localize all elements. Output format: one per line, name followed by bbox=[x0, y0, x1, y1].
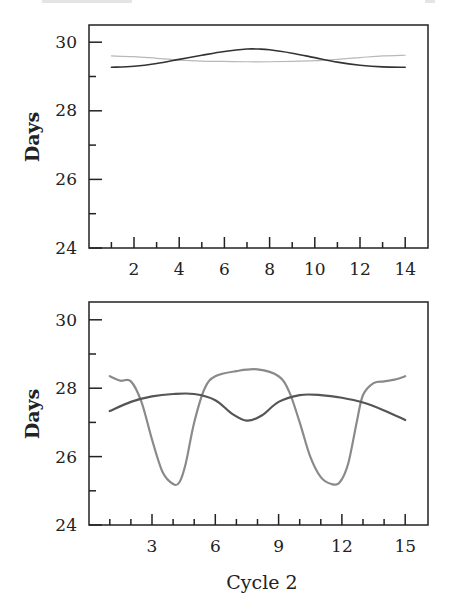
bottom-xtick-label: 12 bbox=[331, 536, 353, 556]
top-xtick-label: 14 bbox=[394, 259, 416, 279]
top-plot-frame bbox=[89, 25, 428, 248]
top-x-tick-labels: 2468101214 bbox=[129, 259, 416, 279]
top-xtick-label: 8 bbox=[264, 259, 275, 279]
bottom-x-tick-labels: 3691215 bbox=[147, 536, 416, 556]
top-chart-panel: 30 28 26 24 2468101214 Days bbox=[21, 25, 428, 279]
top-xtick-label: 6 bbox=[219, 259, 230, 279]
bottom-series-light-line bbox=[110, 369, 405, 485]
top-ytick-28: 28 bbox=[55, 100, 77, 120]
top-y-axis-label: Days bbox=[21, 112, 43, 163]
bottom-xtick-label: 15 bbox=[394, 536, 416, 556]
top-series-light-line bbox=[111, 55, 405, 62]
bottom-ytick-28: 28 bbox=[55, 378, 77, 398]
bottom-xtick-label: 9 bbox=[273, 536, 284, 556]
bottom-xtick-label: 6 bbox=[210, 536, 221, 556]
top-y-axis-ticks bbox=[89, 42, 102, 248]
figure: 30 28 26 24 2468101214 Days 30 28 26 24 … bbox=[0, 0, 455, 611]
bottom-xtick-label: 3 bbox=[147, 536, 158, 556]
bottom-y-axis-label: Days bbox=[21, 389, 43, 440]
top-xtick-label: 10 bbox=[304, 259, 326, 279]
top-xtick-label: 4 bbox=[174, 259, 185, 279]
bottom-ytick-30: 30 bbox=[55, 310, 77, 330]
top-ytick-24: 24 bbox=[55, 238, 77, 258]
bottom-x-axis-label: Cycle 2 bbox=[226, 571, 297, 593]
bottom-x-axis-ticks bbox=[110, 514, 405, 525]
top-x-axis-ticks bbox=[111, 237, 405, 248]
bottom-ytick-26: 26 bbox=[55, 447, 77, 467]
bottom-chart-panel: 30 28 26 24 3691215 Days Cycle 2 bbox=[21, 302, 428, 593]
bottom-series-lines bbox=[110, 369, 405, 485]
top-xtick-label: 12 bbox=[349, 259, 371, 279]
top-series-lines bbox=[111, 49, 405, 67]
top-xtick-label: 2 bbox=[129, 259, 140, 279]
top-ytick-30: 30 bbox=[55, 32, 77, 52]
top-ytick-26: 26 bbox=[55, 169, 77, 189]
bottom-ytick-24: 24 bbox=[55, 515, 77, 535]
bottom-y-axis-ticks bbox=[89, 320, 102, 525]
bottom-plot-frame bbox=[89, 302, 428, 525]
bottom-series-dark-line bbox=[110, 393, 405, 420]
